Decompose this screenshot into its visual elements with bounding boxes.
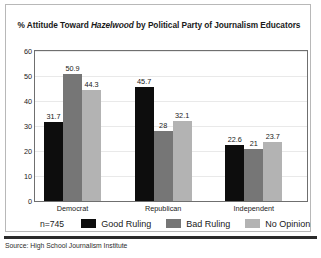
bar-group: 31.750.944.3 [44, 51, 101, 201]
legend-label: Bad Ruling [186, 219, 230, 229]
plot-area: 0102030405060 31.750.944.345.72832.122.6… [34, 50, 308, 202]
legend-item: Good Ruling [81, 219, 151, 229]
y-axis-tick-label: 30 [10, 122, 32, 131]
chart-title-prefix: % Attitude Toward [18, 20, 91, 30]
bar-group: 45.72832.1 [135, 51, 192, 201]
bar: 32.1 [173, 121, 192, 201]
chart-title-emphasis: Hazelwood [91, 20, 134, 30]
y-axis-tick-label: 0 [10, 197, 32, 206]
legend-item: No Opinion [245, 219, 310, 229]
chart-title-suffix: by Political Party of Journalism Educato… [134, 20, 301, 30]
y-axis-tick-label: 60 [10, 47, 32, 56]
bar-value-label: 23.7 [266, 132, 280, 141]
bar-value-label: 32.1 [175, 111, 189, 120]
legend-item: Bad Ruling [166, 219, 230, 229]
bars-layer: 31.750.944.345.72832.122.62123.7 [35, 51, 307, 201]
bar: 44.3 [82, 90, 101, 201]
bar: 21 [244, 149, 263, 202]
bar-value-label: 45.7 [137, 77, 151, 86]
legend-label: No Opinion [265, 219, 310, 229]
legend-label: Good Ruling [101, 219, 151, 229]
legend-swatch [245, 219, 260, 228]
bar-value-label: 44.3 [84, 80, 98, 89]
source-note: Source: High School Journalism Institute [5, 242, 127, 249]
legend-swatch [81, 219, 96, 228]
sample-size-label: n=745 [40, 219, 64, 229]
bar-value-label: 21 [250, 139, 258, 148]
x-axis-tick-label: Democrat [57, 204, 89, 213]
x-axis-tick-label: Independent [234, 204, 275, 213]
bar: 22.6 [225, 145, 244, 202]
footer-divider [4, 236, 317, 239]
x-axis-tick-label: Republican [145, 204, 182, 213]
bar-value-label: 22.6 [228, 135, 242, 144]
bar: 45.7 [135, 87, 154, 201]
chart-title: % Attitude Toward Hazelwood by Political… [6, 20, 312, 30]
bar-value-label: 31.7 [46, 112, 60, 121]
y-axis-tick-label: 40 [10, 97, 32, 106]
legend-swatch [166, 219, 181, 228]
bar: 23.7 [263, 142, 282, 201]
y-axis-tick-label: 20 [10, 147, 32, 156]
bar: 50.9 [63, 74, 82, 201]
bar: 28 [154, 131, 173, 201]
chart-figure: % Attitude Toward Hazelwood by Political… [5, 4, 311, 232]
legend: n=745 Good RulingBad RulingNo Opinion [6, 215, 312, 232]
y-axis-tick-label: 10 [10, 172, 32, 181]
legend-items: Good RulingBad RulingNo Opinion [81, 219, 321, 229]
y-axis-tick-label: 50 [10, 72, 32, 81]
bar: 31.7 [44, 122, 63, 201]
bar-value-label: 28 [159, 121, 167, 130]
bar-group: 22.62123.7 [225, 51, 282, 201]
bar-value-label: 50.9 [65, 64, 79, 73]
